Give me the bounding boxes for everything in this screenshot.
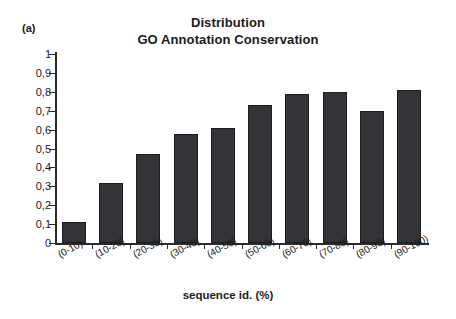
y-axis-tick-label: 0,8 [36, 86, 51, 97]
x-axis-tick-mark [92, 243, 93, 249]
x-axis-tick-mark [316, 243, 317, 249]
chart-title-line-2: GO Annotation Conservation [0, 31, 456, 48]
bar [136, 154, 160, 243]
bar [211, 128, 235, 243]
x-axis-tick-mark [279, 243, 280, 249]
x-axis-tick-mark [353, 243, 354, 249]
bar [360, 111, 384, 243]
y-axis-tick-label: 0,1 [36, 219, 51, 230]
bar [285, 94, 309, 243]
chart-title-line-1: Distribution [191, 15, 265, 30]
bar [174, 134, 198, 243]
y-axis-tick-label: 0,7 [36, 105, 51, 116]
x-axis-tick-mark [130, 243, 131, 249]
y-axis-tick-label: 0,4 [36, 162, 51, 173]
y-axis-tick-label: 1 [45, 49, 51, 60]
x-axis-tick-mark [167, 243, 168, 249]
y-axis-tick-label: 0,6 [36, 124, 51, 135]
y-axis-tick-label: 0,9 [36, 67, 51, 78]
y-axis-tick-label: 0,5 [36, 143, 51, 154]
y-axis-tick-label: 0,2 [36, 200, 51, 211]
bar [248, 105, 272, 243]
x-axis-tick-mark [391, 243, 392, 249]
y-axis-tick-label: 0,3 [36, 181, 51, 192]
x-axis-tick-mark [204, 243, 205, 249]
x-axis-title: sequence id. (%) [0, 289, 456, 301]
bar [323, 92, 347, 243]
chart-title: Distribution GO Annotation Conservation [0, 14, 456, 48]
y-axis-tick-label: 0 [45, 238, 51, 249]
x-axis-tick-mark [242, 243, 243, 249]
bar [99, 183, 123, 243]
plot-area: 00,10,20,30,40,50,60,70,80,91 [55, 54, 428, 243]
bar [397, 90, 421, 243]
